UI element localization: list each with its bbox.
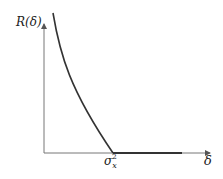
sigma-tick-label: σx2 <box>104 152 117 170</box>
sigma-superscript: 2 <box>112 152 117 161</box>
sigma-symbol: σ <box>104 154 112 168</box>
rate-curve <box>53 13 113 153</box>
sigma-subscript: x <box>112 161 117 170</box>
x-axis-label: δ <box>204 153 212 168</box>
y-axis-label: R(δ) <box>16 15 42 29</box>
